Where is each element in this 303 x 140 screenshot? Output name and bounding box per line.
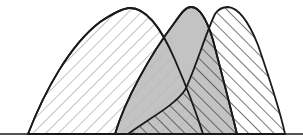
distribution-diagram xyxy=(0,0,303,140)
